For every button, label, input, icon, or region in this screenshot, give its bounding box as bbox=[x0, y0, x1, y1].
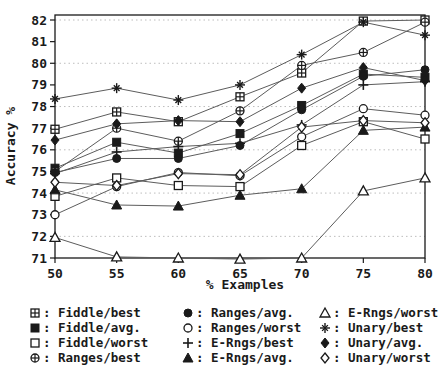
filled-circle-icon bbox=[174, 154, 182, 162]
filled-diamond-icon bbox=[321, 338, 329, 348]
asterisk-icon bbox=[112, 83, 122, 93]
x-tick-label: 75 bbox=[356, 266, 372, 281]
legend-label: : Fiddle/best bbox=[43, 305, 141, 320]
legend-label: : Unary/avg. bbox=[333, 335, 423, 350]
y-tick-label: 75 bbox=[31, 164, 47, 179]
y-tick-label: 80 bbox=[31, 56, 47, 71]
legend-label: : Ranges/worst bbox=[196, 320, 301, 335]
y-tick-label: 82 bbox=[31, 13, 47, 28]
x-tick-label: 80 bbox=[417, 266, 433, 281]
x-tick-label: 55 bbox=[109, 266, 125, 281]
legend-item: : E-Rngs/worst bbox=[317, 305, 438, 320]
legend-item: : E-Rngs/avg. bbox=[180, 350, 317, 365]
y-tick-label: 74 bbox=[31, 186, 47, 201]
legend-column: : Fiddle/best: Fiddle/avg.: Fiddle/worst… bbox=[27, 305, 180, 365]
filled-circle-icon bbox=[421, 66, 429, 74]
plot-area: 71727374757677787980818250556065707580 bbox=[31, 13, 433, 282]
legend-item: : E-Rngs/best bbox=[180, 335, 317, 350]
open-circle-icon bbox=[51, 211, 59, 219]
y-tick-label: 78 bbox=[31, 99, 47, 114]
legend-label: : Ranges/best bbox=[43, 350, 141, 365]
filled-diamond-icon bbox=[317, 336, 333, 350]
open-square-icon bbox=[174, 182, 182, 190]
y-tick-label: 73 bbox=[31, 207, 47, 222]
filled-diamond-icon bbox=[298, 83, 306, 93]
asterisk-icon bbox=[317, 321, 333, 335]
y-tick-label: 72 bbox=[31, 229, 47, 244]
asterisk-icon bbox=[320, 323, 330, 333]
open-square-icon bbox=[298, 141, 306, 149]
legend-item: : Ranges/avg. bbox=[180, 305, 317, 320]
open-circle-icon bbox=[359, 105, 367, 113]
open-circle-icon bbox=[180, 321, 196, 335]
circle-plus-icon bbox=[27, 351, 43, 365]
plus-icon bbox=[112, 147, 122, 157]
legend-label: : E-Rngs/best bbox=[196, 335, 294, 350]
square-plus-icon bbox=[51, 125, 59, 133]
circle-plus-icon bbox=[421, 18, 429, 26]
filled-triangle-icon bbox=[183, 353, 193, 362]
legend-column: : E-Rngs/worst: Unary/best: Unary/avg.: … bbox=[317, 305, 438, 365]
filled-circle-icon bbox=[359, 72, 367, 80]
y-tick-label: 79 bbox=[31, 77, 47, 92]
x-tick-label: 60 bbox=[171, 266, 187, 281]
filled-diamond-icon bbox=[236, 117, 244, 127]
accuracy-vs-examples-chart: 71727374757677787980818250556065707580 A… bbox=[0, 0, 444, 379]
legend-label: : Unary/best bbox=[333, 320, 423, 335]
filled-square-icon bbox=[113, 138, 121, 146]
open-square-icon bbox=[27, 336, 43, 350]
filled-circle-icon bbox=[184, 309, 192, 317]
legend-item: : Unary/best bbox=[317, 320, 438, 335]
asterisk-icon bbox=[235, 80, 245, 90]
open-triangle-icon bbox=[320, 308, 330, 317]
open-square-icon bbox=[421, 135, 429, 143]
chart-canvas: 71727374757677787980818250556065707580 A… bbox=[0, 0, 444, 304]
legend-item: : Ranges/best bbox=[27, 350, 180, 365]
asterisk-icon bbox=[50, 94, 60, 104]
y-tick-label: 76 bbox=[31, 142, 47, 157]
circle-plus-icon bbox=[298, 61, 306, 69]
asterisk-icon bbox=[420, 30, 430, 40]
filled-square-icon bbox=[27, 321, 43, 335]
open-triangle-icon bbox=[112, 252, 122, 261]
square-plus-icon bbox=[113, 108, 121, 116]
legend-label: : Fiddle/avg. bbox=[43, 320, 141, 335]
square-plus-icon bbox=[31, 309, 39, 317]
circle-plus-icon bbox=[359, 48, 367, 56]
x-tick-label: 50 bbox=[47, 266, 63, 281]
open-diamond-icon bbox=[321, 353, 329, 363]
legend-label: : E-Rngs/avg. bbox=[196, 350, 294, 365]
filled-triangle-icon bbox=[180, 351, 196, 365]
filled-circle-icon bbox=[180, 306, 196, 320]
legend-item: : Fiddle/avg. bbox=[27, 320, 180, 335]
legend-label: : E-Rngs/worst bbox=[333, 305, 438, 320]
legend-item: : Unary/avg. bbox=[317, 335, 438, 350]
legend-item: : Unary/worst bbox=[317, 350, 438, 365]
open-diamond-icon bbox=[51, 177, 59, 187]
open-circle-icon bbox=[184, 324, 192, 332]
chart-legend: : Fiddle/best: Fiddle/avg.: Fiddle/worst… bbox=[0, 305, 444, 365]
open-circle-icon bbox=[298, 133, 306, 141]
legend-label: : Unary/worst bbox=[333, 350, 431, 365]
open-square-icon bbox=[31, 339, 39, 347]
square-plus-icon bbox=[27, 306, 43, 320]
open-triangle-icon bbox=[420, 173, 430, 182]
legend-column: : Ranges/avg.: Ranges/worst: E-Rngs/best… bbox=[180, 305, 317, 365]
y-tick-label: 77 bbox=[31, 121, 47, 136]
plus-icon bbox=[358, 80, 368, 90]
plus-icon bbox=[180, 336, 196, 350]
legend-item: : Ranges/worst bbox=[180, 320, 317, 335]
circle-plus-icon bbox=[31, 354, 39, 362]
filled-square-icon bbox=[31, 324, 39, 332]
square-plus-icon bbox=[298, 69, 306, 77]
filled-circle-icon bbox=[298, 106, 306, 114]
asterisk-icon bbox=[297, 50, 307, 60]
y-tick-label: 81 bbox=[31, 34, 47, 49]
legend-item: : Fiddle/worst bbox=[27, 335, 180, 350]
x-axis-label: % Examples bbox=[206, 277, 284, 292]
legend-item: : Fiddle/best bbox=[27, 305, 180, 320]
asterisk-icon bbox=[173, 95, 183, 105]
y-tick-label: 71 bbox=[31, 251, 47, 266]
square-plus-icon bbox=[236, 93, 244, 101]
filled-diamond-icon bbox=[51, 135, 59, 145]
